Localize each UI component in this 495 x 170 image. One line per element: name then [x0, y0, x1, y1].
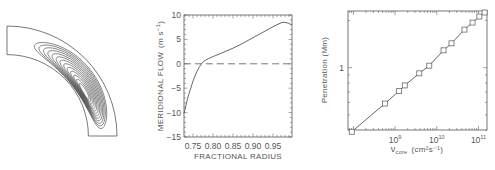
data-point-marker: [441, 48, 446, 53]
data-point-marker: [477, 14, 482, 19]
x-axis-unit: (cm²s⁻¹): [411, 145, 443, 154]
x-tick-labels: 0.750.800.850.900.95: [185, 141, 282, 151]
penetration-panel: 10910101011 1 νcore(cm²s⁻¹) Penetration …: [320, 10, 487, 155]
x-axis-label: νcore(cm²s⁻¹): [391, 144, 443, 155]
y-tick-label: −5: [171, 83, 181, 93]
data-point-marker: [470, 20, 475, 25]
x-tick-label: 1010: [429, 134, 445, 145]
tick-base: 10: [471, 135, 481, 145]
series-lines: [184, 22, 292, 113]
x-tick-label: 0.85: [225, 141, 242, 151]
y-axis-unit: (m s: [156, 31, 165, 48]
x-tick-labels: 10910101011: [389, 134, 486, 145]
meridional-flow-panel: 0.750.800.850.900.95 1050−5−10−15 FRACTI…: [155, 10, 292, 161]
data-point-marker: [462, 27, 467, 32]
data-point-marker: [349, 129, 354, 134]
tick-exponent: 10: [438, 134, 444, 140]
y-axis-unit-close: ): [156, 21, 165, 24]
x-tick-label: 0.80: [205, 141, 222, 151]
data-point-marker: [382, 101, 387, 106]
y-tick-label: 1: [339, 63, 344, 73]
x-tick-label: 0.95: [265, 141, 282, 151]
data-markers: [349, 10, 487, 134]
y-tick-labels: 1: [339, 63, 344, 73]
data-point-marker: [427, 63, 432, 68]
y-tick-labels: 1050−5−10−15: [167, 10, 182, 142]
y-tick-label: 5: [176, 34, 181, 44]
y-axis-label-text: MERIDIONAL FLOW: [156, 52, 165, 131]
y-tick-label: −15: [167, 132, 182, 142]
data-point-marker: [397, 88, 402, 93]
data-point-marker: [402, 83, 407, 88]
figure: 0.750.800.850.900.95 1050−5−10−15 FRACTI…: [0, 0, 495, 170]
y-tick-label: −10: [167, 108, 182, 118]
x-tick-label: 1011: [471, 134, 486, 145]
tick-exponent: 11: [480, 134, 486, 140]
x-tick-label: 0.75: [185, 141, 202, 151]
y-axis-label: Penetration (Mm): [320, 37, 329, 104]
data-point-marker: [417, 71, 422, 76]
y-axis-label: MERIDIONAL FLOW(m s−1): [155, 21, 165, 132]
flow-curve: [184, 22, 292, 113]
y-tick-label: 0: [176, 59, 181, 69]
y-tick-label: 10: [172, 10, 182, 20]
tick-base: 10: [429, 135, 439, 145]
x-axis-subscript: core: [396, 149, 408, 155]
plot-frame: [184, 15, 292, 137]
circulation-diagram-panel: [7, 26, 117, 136]
axis-ticks: [184, 15, 292, 137]
x-axis-label: FRACTIONAL RADIUS: [194, 152, 282, 161]
data-point-marker: [449, 41, 454, 46]
data-point-marker: [482, 10, 487, 15]
x-tick-label: 0.90: [245, 141, 262, 151]
tick-exponent: 9: [398, 134, 401, 140]
